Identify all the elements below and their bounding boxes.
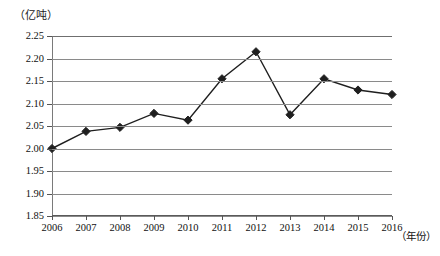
y-axis-tick-mark	[47, 36, 52, 37]
data-point-marker	[116, 123, 124, 131]
x-axis-tick-mark	[222, 216, 223, 220]
y-axis-tick-mark	[47, 104, 52, 105]
x-axis-tick-label: 2008	[110, 223, 131, 234]
x-axis-tick-label: 2010	[178, 223, 199, 234]
gridline	[52, 194, 392, 195]
gridline	[52, 104, 392, 105]
y-axis-tick-label: 2.15	[26, 76, 44, 87]
x-axis-tick-label: 2013	[280, 223, 301, 234]
data-point-marker	[82, 127, 90, 135]
y-axis-tick-mark	[47, 81, 52, 82]
x-axis-tick-mark	[120, 216, 121, 220]
x-axis-tick-mark	[86, 216, 87, 220]
data-point-marker	[388, 90, 396, 98]
x-axis-tick-mark	[188, 216, 189, 220]
y-axis-tick-mark	[47, 194, 52, 195]
data-point-marker	[150, 109, 158, 117]
y-axis-tick-label: 1.85	[26, 211, 44, 222]
gridline	[52, 149, 392, 150]
y-axis-unit-label: （亿吨）	[14, 6, 58, 22]
x-axis-tick-mark	[256, 216, 257, 220]
x-axis-tick-mark	[358, 216, 359, 220]
y-axis-tick-label: 2.10	[26, 98, 44, 109]
y-axis-tick-label: 2.00	[26, 143, 44, 154]
x-axis-tick-mark	[154, 216, 155, 220]
y-axis-tick-mark	[47, 171, 52, 172]
y-axis-tick-label: 2.25	[26, 31, 44, 42]
data-point-marker	[354, 86, 362, 94]
x-axis-title: （年份）	[396, 228, 436, 243]
y-axis-tick-label: 1.90	[26, 188, 44, 199]
x-axis-tick-label: 2014	[314, 223, 335, 234]
x-axis-tick-label: 2007	[76, 223, 97, 234]
x-axis-tick-label: 2006	[42, 223, 63, 234]
x-axis-tick-mark	[290, 216, 291, 220]
x-axis-tick-label: 2012	[246, 223, 267, 234]
y-axis-tick-label: 2.20	[26, 53, 44, 64]
gridline	[52, 126, 392, 127]
x-axis-tick-mark	[52, 216, 53, 220]
y-axis-tick-mark	[47, 126, 52, 127]
gridline	[52, 171, 392, 172]
line-chart: （亿吨） 2.252.202.152.102.052.001.951.901.8…	[0, 0, 440, 256]
y-axis-tick-mark	[47, 149, 52, 150]
x-axis-tick-mark	[324, 216, 325, 220]
x-axis-tick-label: 2015	[348, 223, 369, 234]
x-axis-tick-mark	[392, 216, 393, 220]
data-line	[52, 52, 392, 149]
y-axis-tick-label: 1.95	[26, 166, 44, 177]
gridline	[52, 81, 392, 82]
plot-area: 2.252.202.152.102.052.001.951.901.852006…	[52, 36, 392, 216]
gridline	[52, 36, 392, 37]
y-axis-tick-mark	[47, 59, 52, 60]
x-axis-tick-label: 2011	[212, 223, 233, 234]
gridline	[52, 59, 392, 60]
x-axis-tick-label: 2009	[144, 223, 165, 234]
y-axis-tick-label: 2.05	[26, 121, 44, 132]
